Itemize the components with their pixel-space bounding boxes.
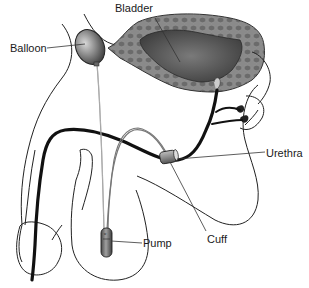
bladder-label: Bladder	[115, 2, 153, 14]
urethra	[32, 90, 217, 280]
artificial-urinary-sphincter-diagram: w Bladder Balloon Urethra Cuff Pump	[0, 0, 309, 288]
pump-label: Pump	[143, 237, 172, 249]
balloon-label: Balloon	[10, 42, 47, 54]
cuff	[159, 149, 179, 164]
cuff-label: Cuff	[207, 233, 228, 245]
pump-leader	[111, 241, 142, 243]
balloon	[70, 25, 111, 69]
urethra-label: Urethra	[266, 147, 304, 159]
bladder	[108, 14, 265, 92]
pump: w	[101, 228, 112, 257]
